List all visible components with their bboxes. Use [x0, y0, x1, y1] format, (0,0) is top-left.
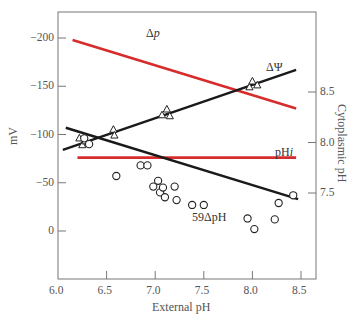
chart-svg — [0, 0, 362, 323]
series-line — [73, 40, 297, 109]
fit-line — [66, 128, 298, 199]
y-tick-label: −100 — [30, 128, 54, 140]
x-tick-label: 7.5 — [195, 284, 209, 296]
series-label: ΔΨ — [266, 60, 283, 75]
x-tick-label: 7.0 — [146, 284, 160, 296]
circle-marker — [173, 197, 180, 204]
circle-marker — [86, 141, 93, 148]
circle-marker — [155, 177, 162, 184]
y-tick-label: −200 — [30, 31, 54, 43]
circle-marker — [244, 215, 251, 222]
y-tick-label: 0 — [48, 224, 54, 236]
series-layer — [63, 40, 298, 233]
series-label-italic: i — [290, 145, 293, 159]
x-tick-label: 8.5 — [292, 284, 306, 296]
circle-marker — [271, 216, 278, 223]
series-label: pHi — [275, 145, 293, 160]
series-label-italic: p — [154, 26, 160, 40]
y-tick-label: −150 — [30, 79, 54, 91]
series-label: Δp — [146, 26, 160, 41]
circle-marker — [159, 184, 166, 191]
triangle-marker — [110, 126, 117, 133]
x-tick-label: 6.0 — [49, 284, 63, 296]
series-label: 59ΔpH — [192, 210, 226, 225]
circle-marker — [137, 162, 144, 169]
circle-marker — [161, 194, 168, 201]
circle-marker — [171, 183, 178, 190]
circle-marker — [290, 192, 297, 199]
y-axis-label: mV — [6, 127, 21, 145]
y-right-tick-label: 8.5 — [320, 85, 334, 97]
x-axis-label: External pH — [152, 300, 210, 315]
triangle-marker — [163, 105, 170, 112]
y-axis-right-label: Cytoplasmic pH — [334, 104, 349, 182]
x-tick-label: 6.5 — [98, 284, 112, 296]
y-right-tick-label: 7.5 — [320, 186, 334, 198]
x-tick-label: 8.0 — [243, 284, 257, 296]
circle-marker — [200, 201, 207, 208]
circle-marker — [251, 225, 258, 232]
circle-marker — [189, 201, 196, 208]
circle-marker — [113, 172, 120, 179]
y-tick-label: −50 — [36, 176, 54, 188]
triangle-marker — [249, 77, 256, 84]
circle-marker — [275, 199, 282, 206]
circle-marker — [144, 162, 151, 169]
y-right-tick-label: 8.0 — [320, 136, 334, 148]
